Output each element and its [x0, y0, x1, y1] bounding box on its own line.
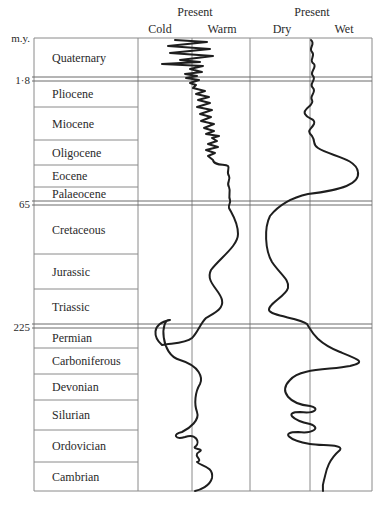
period-label-eocene: Eocene: [52, 169, 87, 183]
tick-65: 65: [19, 198, 31, 210]
period-label-miocene: Miocene: [52, 117, 94, 131]
period-label-triassic: Triassic: [52, 300, 90, 314]
period-label-devonian: Devonian: [52, 380, 99, 394]
temp-cold-label: Cold: [148, 22, 171, 36]
period-label-palaeocene: Palaeocene: [52, 187, 106, 201]
y-axis-label: m.y.: [11, 32, 30, 44]
period-label-carboniferous: Carboniferous: [52, 354, 121, 368]
period-labels: QuaternaryPlioceneMioceneOligoceneEocene…: [52, 51, 121, 484]
tick-1-8: 1·8: [15, 74, 30, 86]
temp-present-header: Present: [177, 5, 213, 19]
period-label-oligocene: Oligocene: [52, 146, 101, 160]
temperature-curve: [155, 40, 238, 491]
period-label-jurassic: Jurassic: [52, 265, 90, 279]
period-label-permian: Permian: [52, 331, 92, 345]
period-label-cambrian: Cambrian: [52, 470, 99, 484]
moist-wet-label: Wet: [334, 22, 354, 36]
period-label-ordovician: Ordovician: [52, 439, 106, 453]
period-label-silurian: Silurian: [52, 408, 90, 422]
period-label-quaternary: Quaternary: [52, 51, 106, 65]
moist-dry-label: Dry: [273, 22, 292, 36]
temp-warm-label: Warm: [207, 22, 237, 36]
period-label-pliocene: Pliocene: [52, 87, 93, 101]
tick-225: 225: [14, 321, 31, 333]
moist-present-header: Present: [294, 5, 330, 19]
climate-chart: Present Cold Warm Present Dry Wet m.y. 1…: [0, 0, 385, 506]
period-label-cretaceous: Cretaceous: [52, 223, 106, 237]
moisture-curve: [266, 40, 359, 491]
